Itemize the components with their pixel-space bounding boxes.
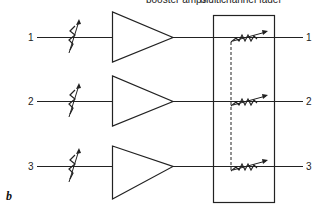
channel-2-output-label: 2 [306, 96, 312, 107]
channel-3: 3 3 [28, 146, 312, 199]
variable-resistor-icon [69, 83, 81, 117]
channel-2: 2 2 [28, 76, 312, 126]
channel-3-input-label: 3 [28, 161, 34, 172]
booster-amps-header: booster amps [146, 0, 207, 5]
multichannel-fader-box [214, 16, 275, 203]
channel-1: 1 1 [28, 12, 312, 62]
booster-amp-1-triangle-icon [113, 12, 174, 62]
channel-2-input-label: 2 [28, 96, 34, 107]
variable-resistor-icon [69, 19, 81, 53]
fader-resistor-icon [231, 94, 268, 106]
channel-1-output-label: 1 [306, 32, 312, 43]
channel-3-output-label: 3 [306, 161, 312, 172]
fader-resistor-icon [231, 30, 268, 42]
panel-label: b [6, 189, 12, 203]
booster-amp-2-triangle-icon [113, 76, 174, 126]
signal-flow-diagram: booster amps multichannel fader 1 1 2 [0, 0, 316, 205]
channel-1-input-label: 1 [28, 32, 34, 43]
fader-header: multichannel fader [200, 0, 282, 5]
variable-resistor-icon [69, 148, 81, 182]
fader-resistor-icon [231, 159, 268, 171]
booster-amp-3-triangle-icon [113, 146, 174, 199]
